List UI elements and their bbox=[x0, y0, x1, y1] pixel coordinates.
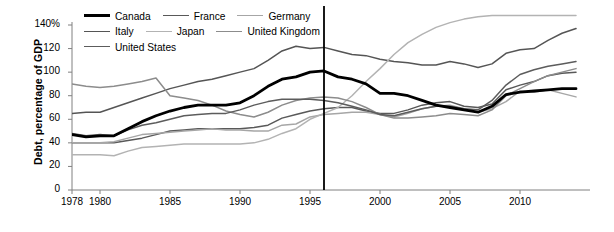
legend-item-canada[interactable]: Canada bbox=[84, 8, 151, 24]
y-tick-label: 120 bbox=[20, 42, 60, 53]
y-tick-label: 140% bbox=[20, 18, 60, 29]
x-tick-label: 1985 bbox=[148, 196, 192, 207]
legend-item-united-kingdom[interactable]: United Kingdom bbox=[216, 24, 320, 40]
chart-legend: CanadaFranceGermanyItalyJapanUnited King… bbox=[84, 8, 332, 55]
legend-item-germany[interactable]: Germany bbox=[237, 8, 310, 24]
x-tick-label: 1995 bbox=[288, 196, 332, 207]
x-tick-label: 2000 bbox=[358, 196, 402, 207]
y-tick-label: 80 bbox=[20, 89, 60, 100]
legend-row: ItalyJapanUnited Kingdom bbox=[84, 24, 332, 40]
legend-item-france[interactable]: France bbox=[163, 8, 226, 24]
x-tick-label: 1980 bbox=[78, 196, 122, 207]
y-tick-label: 100 bbox=[20, 65, 60, 76]
legend-swatch-icon bbox=[84, 46, 110, 47]
legend-label: France bbox=[194, 9, 226, 25]
legend-item-united-states[interactable]: United States bbox=[84, 39, 176, 55]
legend-label: Italy bbox=[115, 24, 134, 40]
legend-swatch-icon bbox=[216, 31, 242, 32]
legend-swatch-icon bbox=[84, 31, 110, 32]
legend-label: Canada bbox=[115, 9, 151, 25]
legend-item-italy[interactable]: Italy bbox=[84, 24, 134, 40]
legend-row: CanadaFranceGermany bbox=[84, 8, 332, 24]
y-tick-label: 0 bbox=[20, 183, 60, 194]
legend-swatch-icon bbox=[84, 14, 110, 17]
x-tick-label: 2005 bbox=[428, 196, 472, 207]
y-tick-label: 60 bbox=[20, 112, 60, 123]
legend-row: United States bbox=[84, 39, 332, 55]
legend-swatch-icon bbox=[163, 15, 189, 16]
y-tick-label: 20 bbox=[20, 159, 60, 170]
legend-label: United States bbox=[115, 40, 176, 56]
x-tick-label: 2010 bbox=[498, 196, 542, 207]
x-tick-label: 1990 bbox=[218, 196, 262, 207]
legend-label: Japan bbox=[177, 24, 205, 40]
legend-label: United Kingdom bbox=[247, 24, 320, 40]
legend-swatch-icon bbox=[237, 15, 263, 16]
chart-figure: Debt, percentage of GDP 0204060801001201… bbox=[0, 0, 614, 232]
legend-label: Germany bbox=[268, 9, 310, 25]
legend-swatch-icon bbox=[146, 31, 172, 32]
legend-item-japan[interactable]: Japan bbox=[146, 24, 205, 40]
y-tick-label: 40 bbox=[20, 136, 60, 147]
